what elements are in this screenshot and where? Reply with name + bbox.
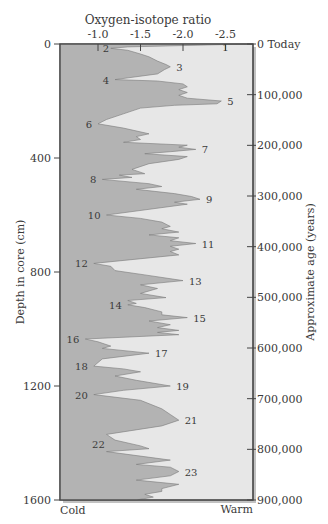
left-tick-label: 800 [30, 266, 51, 279]
right-tick-label: 0 Today [257, 38, 301, 51]
stage-label: 4 [103, 75, 109, 86]
stage-label: 16 [67, 334, 80, 345]
stage-label: 17 [155, 348, 168, 359]
left-tick-label: 0 [44, 38, 51, 51]
stage-label: 11 [202, 239, 215, 250]
right-axis-title: Approximate age (years) [304, 203, 317, 341]
stage-label: 8 [90, 174, 96, 185]
stage-label: 7 [202, 144, 208, 155]
cold-label: Cold [60, 504, 86, 517]
right-tick-label: 100,000 [257, 89, 303, 102]
right-tick-label: 200,000 [257, 139, 303, 152]
right-tick-label: 600,000 [257, 342, 303, 355]
stage-label: 9 [206, 194, 212, 205]
right-tick-label: 300,000 [257, 190, 303, 203]
stage-label: 3 [176, 62, 182, 73]
right-tick-label: 800,000 [257, 443, 303, 456]
right-tick-label: 700,000 [257, 393, 303, 406]
stage-label: 13 [189, 276, 202, 287]
stage-label: 1 [222, 42, 228, 53]
top-tick-label: -1.0 [87, 28, 108, 41]
stage-label: 23 [185, 467, 198, 478]
oxygen-isotope-chart: Oxygen-isotope ratio -1.0-1.5-2.0-2.5 04… [0, 0, 328, 524]
top-tick-label: -2.5 [215, 28, 236, 41]
top-tick-label: -1.5 [130, 28, 151, 41]
right-tick-label: 400,000 [257, 241, 303, 254]
stage-label: 22 [92, 439, 105, 450]
left-axis-title: Depth in core (cm) [14, 220, 27, 325]
left-tick-label: 1600 [23, 494, 51, 507]
stage-label: 10 [88, 210, 101, 221]
left-axis: 040080012001600 [23, 38, 60, 507]
stage-label: 2 [103, 43, 109, 54]
stage-label: 5 [227, 96, 233, 107]
stage-label: 15 [193, 313, 206, 324]
right-tick-label: 500,000 [257, 291, 303, 304]
stage-label: 18 [75, 361, 88, 372]
stage-label: 21 [185, 415, 198, 426]
right-tick-label: 900,000 [257, 494, 303, 507]
left-tick-label: 400 [30, 152, 51, 165]
left-tick-label: 1200 [23, 380, 51, 393]
stage-label: 12 [75, 258, 88, 269]
stage-label: 19 [176, 381, 189, 392]
chart-title: Oxygen-isotope ratio [85, 13, 212, 27]
top-tick-label: -2.0 [172, 28, 193, 41]
stage-label: 6 [86, 119, 92, 130]
warm-label: Warm [220, 503, 253, 516]
stage-label: 14 [109, 300, 122, 311]
stage-label: 20 [75, 390, 88, 401]
